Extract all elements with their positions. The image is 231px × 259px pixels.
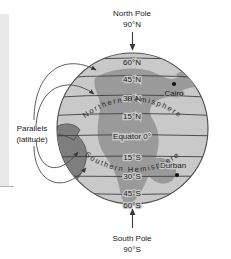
south-pole-value: 90°S bbox=[123, 245, 140, 254]
parallels-callout-line1: Parallels bbox=[17, 124, 48, 133]
parallels-callout: Parallels (latitude) bbox=[16, 124, 47, 144]
parallels-callout-line2: (latitude) bbox=[16, 135, 47, 144]
south-pole-name: South Pole bbox=[112, 234, 152, 243]
parallel-label-60n: 60°N bbox=[123, 58, 141, 67]
parallel-label-15s: 15°S bbox=[123, 153, 140, 162]
cairo-label: Cairo bbox=[164, 89, 184, 98]
diagram-canvas: 60°N 45°N 30°N 15°N Equator 0° 15°S 30°S… bbox=[0, 0, 231, 259]
cairo-dot bbox=[172, 82, 176, 86]
parallel-label-45n: 45°N bbox=[123, 75, 141, 84]
parallel-label-60s: 60°S bbox=[123, 201, 140, 210]
north-pole-name: North Pole bbox=[113, 9, 151, 18]
parallel-label-equator: Equator 0° bbox=[113, 132, 151, 141]
parallel-label-45s: 45°S bbox=[123, 189, 140, 198]
north-pole-value: 90°N bbox=[123, 20, 141, 29]
durban-label: Durban bbox=[160, 161, 186, 170]
globe-latitude-diagram: 60°N 45°N 30°N 15°N Equator 0° 15°S 30°S… bbox=[0, 0, 231, 259]
parallel-label-15n: 15°N bbox=[123, 112, 141, 121]
durban-dot bbox=[175, 173, 179, 177]
